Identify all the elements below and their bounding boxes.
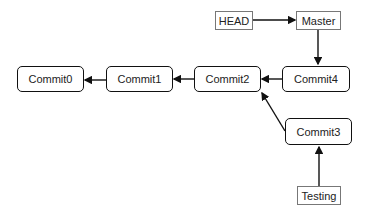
ref-head-label: HEAD <box>219 15 250 27</box>
ref-head: HEAD <box>215 11 253 30</box>
ref-testing-label: Testing <box>302 190 337 202</box>
commit-node-3: Commit3 <box>285 118 352 145</box>
edge-commit3-commit2 <box>262 93 285 131</box>
commit-node-0: Commit0 <box>17 66 84 92</box>
commit-label: Commit3 <box>296 126 340 138</box>
commit-node-4: Commit4 <box>282 66 350 92</box>
commit-label: Commit4 <box>294 73 338 85</box>
commit-label: Commit2 <box>205 73 249 85</box>
commit-node-1: Commit1 <box>106 66 173 92</box>
commit-label: Commit1 <box>117 73 161 85</box>
commit-node-2: Commit2 <box>194 66 261 92</box>
ref-testing: Testing <box>297 186 341 205</box>
ref-master-label: Master <box>302 15 336 27</box>
edges-layer <box>0 0 366 217</box>
commit-label: Commit0 <box>28 73 72 85</box>
ref-master: Master <box>296 11 341 30</box>
